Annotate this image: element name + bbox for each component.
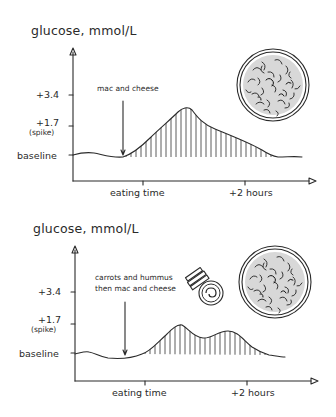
annotation-mac-and-cheese: mac and cheese (97, 84, 159, 93)
x-axis-arrowhead-icon (309, 178, 316, 184)
y-tick-sublabel-spike: (spike) (29, 128, 54, 137)
x-ticks (143, 181, 245, 185)
annotation-carrots-and-hummus: carrots and hummus (95, 273, 173, 282)
x-tick-label-eating-time: eating time (112, 387, 167, 398)
y-tick-label-3-4: +3.4 (38, 286, 61, 297)
annotation-arrow-icon (121, 101, 125, 155)
y-tick-label-1-7: +1.7 (38, 314, 61, 325)
y-tick-sublabel-spike: (spike) (31, 325, 56, 334)
glucose-area-hatch (145, 318, 265, 360)
x-axis-arrowhead-icon (311, 378, 318, 384)
glucose-curve (73, 108, 302, 157)
y-ticks (69, 95, 73, 155)
x-tick-label-2-hours: +2 hours (231, 387, 275, 398)
y-tick-label-baseline: baseline (19, 348, 59, 359)
y-tick-label-baseline: baseline (17, 150, 57, 161)
x-tick-label-2-hours: +2 hours (229, 187, 273, 198)
y-axis-title: glucose, mmol/L (33, 221, 139, 236)
annotation-arrow-icon (123, 302, 127, 355)
y-ticks (71, 292, 75, 353)
x-ticks (145, 381, 247, 385)
y-tick-label-1-7: +1.7 (36, 117, 59, 128)
carrots-and-hummus-icon (185, 267, 223, 305)
y-axis-title: glucose, mmol/L (31, 23, 137, 38)
annotation-then-mac-and-cheese: then mac and cheese (95, 284, 176, 293)
chart-bottom: glucose, mmol/L +3.4 +1.7 (spike) baseli… (19, 221, 318, 398)
chart-top: glucose, mmol/L +3.4 +1.7 (spike) baseli… (17, 23, 316, 198)
plate-of-mac-and-cheese-icon (239, 246, 311, 318)
plate-of-mac-and-cheese-icon (237, 49, 309, 121)
y-tick-label-3-4: +3.4 (36, 89, 59, 100)
glucose-area-hatch (126, 100, 271, 160)
x-tick-label-eating-time: eating time (110, 187, 165, 198)
glucose-comparison-diagram: glucose, mmol/L +3.4 +1.7 (spike) baseli… (0, 0, 336, 417)
